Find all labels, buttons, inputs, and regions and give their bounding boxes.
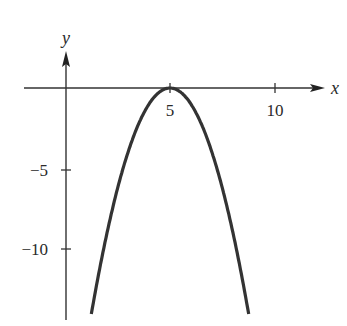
x-tick-label-10: 10 [267, 101, 284, 120]
x-tick-label-5: 5 [166, 101, 175, 120]
parabola-chart: 5 10 −5 −10 x y [0, 0, 347, 326]
parabola-curve [91, 88, 248, 314]
x-axis-label: x [330, 78, 339, 98]
y-tick-label-neg5: −5 [30, 161, 48, 180]
y-tick-label-neg10: −10 [21, 240, 48, 259]
chart-canvas: 5 10 −5 −10 x y [0, 0, 347, 326]
y-axis-label: y [60, 28, 70, 48]
